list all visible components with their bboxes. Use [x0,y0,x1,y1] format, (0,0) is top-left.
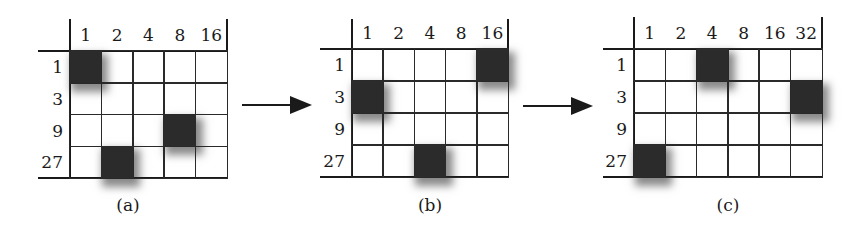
grid-cell [132,146,165,179]
filled-cell [414,145,445,177]
grid-cell [727,48,760,82]
column-header: 8 [728,23,759,43]
column-header: 2 [101,25,132,45]
filled-cell [101,146,132,178]
column-header: 2 [665,23,696,43]
grid-cell [101,50,134,83]
grid-cell [132,50,165,83]
grid-cell [665,48,698,82]
arrow-a-to-b [242,104,292,106]
grid-cell [101,114,134,147]
grid-cell [445,80,478,114]
grid-cell [665,80,698,114]
grid-cell [633,80,666,114]
grid-cell [382,80,415,114]
grid-cell [69,114,102,147]
grid-cell [132,82,165,115]
grid-cell [382,144,415,178]
grid-cell [382,112,415,146]
grid-cell [101,82,134,115]
grid-cell [163,82,196,115]
grid-cell [445,112,478,146]
column-header: 16 [196,25,227,45]
grid-cell [69,146,102,179]
row-header: 1 [319,55,345,75]
grid-cell [790,112,823,146]
grid-cell [758,112,791,146]
grid-cell [476,144,509,178]
grid-cell [195,82,228,115]
grid-cell [758,144,791,178]
grid-cell [69,82,102,115]
column-header: 1 [352,23,383,43]
row-header: 9 [319,119,345,139]
filled-cell [164,115,195,147]
grid-cell [195,114,228,147]
grid-cell [476,112,509,146]
grid-cell [414,112,447,146]
grid-cell [351,112,384,146]
filled-cell [70,51,101,83]
filled-cell [352,81,383,113]
row-header: 3 [601,87,627,107]
grid-cell [727,144,760,178]
grid-cell [696,144,729,178]
column-header: 1 [634,23,665,43]
grid-cell [414,80,447,114]
column-header: 8 [446,23,477,43]
row-header: 27 [319,151,345,171]
grid-cell [790,144,823,178]
grid-cell [727,80,760,114]
grid-cell [696,80,729,114]
filled-cell [477,49,508,81]
grid-cell [790,48,823,82]
grid-cell [445,48,478,82]
grid-cell [414,48,447,82]
grid-cell [351,144,384,178]
grid-cell [696,112,729,146]
grid-cell [382,48,415,82]
filled-cell [697,49,728,81]
grid-cell [476,80,509,114]
row-header: 27 [37,152,63,172]
grid-cell [195,146,228,179]
column-header: 16 [477,23,508,43]
panel-caption: (a) [108,195,148,215]
row-header: 3 [319,87,345,107]
grid-cell [163,146,196,179]
grid-cell [445,144,478,178]
panel-caption: (b) [410,195,450,215]
filled-cell [791,81,822,113]
arrow-b-to-c [523,105,573,107]
grid-cell [727,112,760,146]
row-header: 1 [37,57,63,77]
grid-cell [633,112,666,146]
column-header: 1 [70,25,101,45]
panel-caption: (c) [708,195,748,215]
grid-cell [758,48,791,82]
grid-cell [665,112,698,146]
column-header: 8 [164,25,195,45]
grid-cell [758,80,791,114]
arrow-head-b-to-c [571,97,593,115]
grid-cell [132,114,165,147]
column-header: 4 [414,23,445,43]
grid-cell [665,144,698,178]
grid-cell [163,50,196,83]
filled-cell [634,145,665,177]
column-header: 4 [133,25,164,45]
row-header: 9 [601,119,627,139]
row-header: 27 [601,151,627,171]
column-header: 2 [383,23,414,43]
row-header: 3 [37,89,63,109]
column-header: 4 [697,23,728,43]
row-header: 9 [37,121,63,141]
column-header: 32 [791,23,822,43]
grid-cell [633,48,666,82]
arrow-head-a-to-b [290,96,312,114]
grid-cell [351,48,384,82]
row-header: 1 [601,55,627,75]
grid-cell [195,50,228,83]
column-header: 16 [759,23,790,43]
